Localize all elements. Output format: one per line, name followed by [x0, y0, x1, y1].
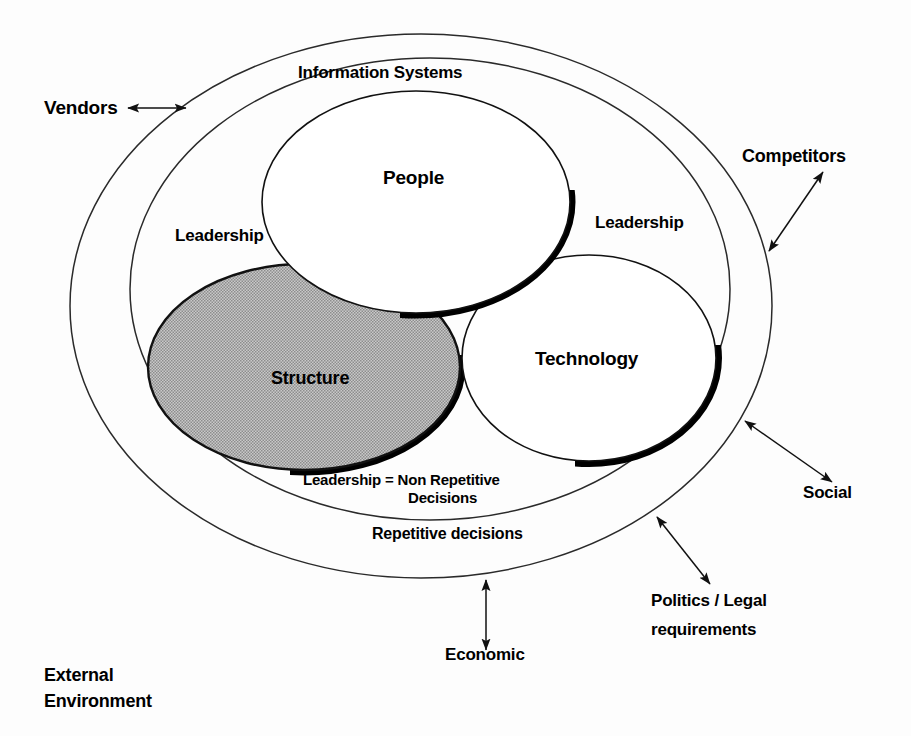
- diagram-canvas: [0, 0, 911, 736]
- social-arrow: [745, 421, 832, 482]
- label-information-systems: Information Systems: [298, 63, 462, 83]
- label-structure: Structure: [271, 368, 349, 389]
- competitors-arrow: [769, 172, 823, 251]
- label-vendors: Vendors: [44, 97, 118, 119]
- label-leadership-equals-non-repetitive-decisions: Leadership = Non RepetitiveDecisions: [303, 471, 500, 506]
- label-technology: Technology: [535, 348, 638, 370]
- label-social: Social: [803, 483, 852, 503]
- label-repetitive-decisions: Repetitive decisions: [372, 525, 523, 544]
- people-circle-group: [262, 91, 570, 313]
- label-leadership-left: Leadership: [175, 226, 264, 246]
- external-line2: Environment: [44, 691, 152, 712]
- label-economic: Economic: [445, 645, 525, 665]
- label-leadership-right: Leadership: [595, 213, 684, 233]
- people-circle: [262, 91, 570, 313]
- label-politics-legal-requirements: Politics / Legalrequirements: [651, 591, 767, 640]
- politics-legal-line2: requirements: [651, 620, 767, 640]
- label-competitors: Competitors: [742, 146, 846, 167]
- decisions-text: Decisions: [408, 489, 500, 507]
- leadership-equals-prefix: Leadership =: [303, 471, 398, 488]
- politics-legal-line1: Politics / Legal: [651, 591, 767, 610]
- label-external-environment: ExternalEnvironment: [44, 665, 152, 712]
- external-line1: External: [44, 665, 113, 685]
- non-repetitive-text: Non Repetitive: [398, 471, 500, 488]
- politics-arrow: [657, 517, 710, 584]
- diagram-root: Information Systems Vendors People Compe…: [0, 0, 911, 736]
- label-people: People: [383, 167, 444, 189]
